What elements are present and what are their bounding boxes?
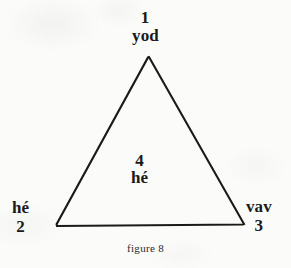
figure-caption: figure 8 [0, 242, 291, 254]
vertex-label-yod: 1 yod [0, 9, 291, 45]
vertex-number-3: 3 [246, 217, 272, 234]
vertex-label-vav: vav 3 [246, 198, 272, 235]
center-name-he: hé [0, 169, 285, 186]
center-number-4: 4 [0, 152, 285, 169]
center-label-he: 4 hé [0, 152, 285, 187]
vertex-number-1: 1 [0, 9, 291, 26]
vertex-number-2: 2 [12, 218, 29, 235]
figure-8-diagram: 1 yod 4 hé hé 2 vav 3 figure 8 [0, 0, 291, 268]
triangle-outline [57, 57, 244, 226]
vertex-name-he: hé [12, 199, 29, 216]
vertex-name-vav: vav [246, 198, 272, 215]
vertex-label-he: hé 2 [12, 199, 29, 236]
vertex-name-yod: yod [0, 27, 291, 44]
